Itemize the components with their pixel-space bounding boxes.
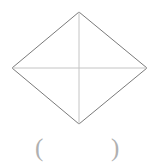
figure-root: ( ) <box>0 0 157 164</box>
answer-open-paren: ( <box>35 134 43 162</box>
rhombus-diagram <box>0 0 157 136</box>
answer-close-paren: ) <box>111 134 119 162</box>
answer-blank-row: ( ) <box>0 134 157 164</box>
